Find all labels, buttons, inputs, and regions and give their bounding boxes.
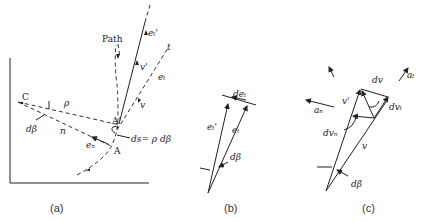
ds-label: ds= ρ dβ (131, 134, 171, 144)
et-prime-line (145, 5, 150, 22)
dbeta-leader (36, 115, 44, 120)
point-c (21, 102, 24, 105)
dbeta-label-c: dβ (351, 179, 362, 189)
v-vector-c (326, 99, 388, 191)
panel-c: dv aₜ aₙ v' dvₜ dvₙ v dβ (c) (306, 67, 415, 214)
v-label-c: v (362, 141, 367, 151)
dbeta-label: dβ (26, 124, 37, 134)
path-curve (77, 45, 118, 175)
dvn-label: dvₙ (323, 128, 338, 138)
dv-arc (369, 101, 379, 107)
et-label: eₜ (158, 72, 166, 82)
dv-vector (362, 91, 374, 118)
point-a-label: A (113, 146, 121, 156)
kinematics-diagram: Path C ρ dβ n eₙ A A' ds= ρ dβ v v' eₜ e… (0, 0, 424, 222)
at-label: aₜ (407, 70, 415, 80)
et-prime-label-b: eₜ' (207, 122, 217, 132)
det-label: deₜ (233, 89, 247, 99)
v-prime-label: v' (140, 62, 148, 72)
panel-b: deₜ eₜ' eₜ dβ (b) (200, 89, 256, 214)
tangent-line (117, 48, 168, 130)
caption-a: (a) (50, 202, 63, 214)
rho-label: ρ (63, 98, 70, 108)
an-label: aₙ (314, 105, 323, 115)
dbeta-left-tick (200, 168, 210, 170)
path-label: Path (102, 34, 123, 44)
center-label: C (22, 92, 29, 102)
caption-c: (c) (362, 202, 375, 214)
et-vector (208, 106, 247, 193)
dbeta-label-b: dβ (230, 152, 241, 162)
ds-leader (117, 135, 130, 138)
v-prime-label-c: v' (342, 96, 350, 106)
et-prime-label: eₜ' (148, 28, 158, 38)
dvt-label: dvₜ (389, 102, 403, 112)
up-arrow (329, 67, 334, 77)
t-label: t (167, 42, 171, 52)
et-prime-vector (208, 104, 228, 193)
en-label: eₙ (86, 140, 95, 150)
point-a-prime-label: A' (111, 116, 121, 126)
panel-a: Path C ρ dβ n eₙ A A' ds= ρ dβ v v' eₜ e… (10, 5, 171, 214)
dvt-vector (374, 97, 388, 118)
dv-label: dv (372, 75, 383, 85)
dv-top-edge (361, 89, 388, 97)
caption-b: (b) (224, 202, 237, 214)
n-label: n (60, 126, 66, 136)
et-label-b: eₜ (232, 125, 240, 135)
v-label: v (140, 100, 145, 110)
